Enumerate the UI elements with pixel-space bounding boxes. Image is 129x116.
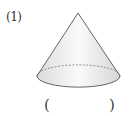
cone-lateral-surface: [37, 13, 120, 87]
answer-close-paren: ): [109, 96, 115, 114]
answer-open-paren: (: [44, 96, 50, 114]
answer-blank[interactable]: [54, 98, 108, 114]
